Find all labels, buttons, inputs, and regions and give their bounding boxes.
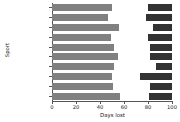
bar-segment-3 — [150, 53, 172, 60]
x-tick-label: 40 — [88, 104, 112, 110]
bar-segment-3 — [148, 4, 172, 11]
bar-track — [52, 24, 172, 31]
x-tick-label: 0 — [40, 104, 64, 110]
bar-segment-1 — [52, 24, 119, 31]
bar-segment-3 — [150, 83, 172, 90]
bar-segment-1 — [52, 34, 111, 41]
bar-segment-2 — [114, 63, 156, 70]
bar-segment-3 — [149, 93, 172, 100]
x-tick-label: 60 — [112, 104, 136, 110]
bar-segment-2 — [120, 93, 149, 100]
bar-segment-1 — [52, 14, 108, 21]
bar-track — [52, 44, 172, 51]
bar-segment-1 — [52, 44, 114, 51]
bar-track — [52, 4, 172, 11]
x-tick-label: 100 — [160, 104, 180, 110]
plot-area: OverallBoy's footballBoy's soccerGirl's … — [52, 3, 172, 101]
bar-segment-3 — [148, 34, 172, 41]
y-axis-title: Sport — [4, 30, 10, 70]
stacked-bar-chart: Sport OverallBoy's footballBoy's soccerG… — [0, 0, 180, 122]
bar-track — [52, 53, 172, 60]
bar-row: Girl's basketball — [52, 62, 172, 72]
bar-track — [52, 93, 172, 100]
bar-row: Boy's soccer — [52, 23, 172, 33]
bar-segment-3 — [146, 14, 172, 21]
bar-segment-3 — [140, 73, 172, 80]
bar-segment-1 — [52, 63, 114, 70]
bar-segment-1 — [52, 73, 112, 80]
bar-segment-1 — [52, 93, 120, 100]
bar-segment-3 — [156, 63, 172, 70]
bar-row: Boy's football — [52, 13, 172, 23]
bar-row: Boy's basketball — [52, 52, 172, 62]
x-tick-label: 80 — [136, 104, 160, 110]
bar-segment-3 — [153, 24, 172, 31]
bar-row: Boy's baseball — [52, 81, 172, 91]
bar-track — [52, 14, 172, 21]
bar-segment-2 — [112, 4, 148, 11]
bar-segment-1 — [52, 83, 113, 90]
x-axis-title: Days lost — [52, 112, 173, 118]
bar-row: Girl's softball — [52, 91, 172, 101]
bar-segment-1 — [52, 53, 118, 60]
bar-track — [52, 34, 172, 41]
bar-segment-1 — [52, 4, 112, 11]
bar-segment-3 — [150, 44, 172, 51]
bar-row: Girl's volleyball — [52, 42, 172, 52]
bar-segment-2 — [114, 44, 150, 51]
bar-track — [52, 73, 172, 80]
bar-segment-2 — [112, 73, 140, 80]
bar-row: Girl's soccer — [52, 32, 172, 42]
bar-segment-2 — [108, 14, 145, 21]
bar-track — [52, 63, 172, 70]
x-tick-label: 20 — [64, 104, 88, 110]
bar-row: Overall — [52, 3, 172, 13]
bar-segment-2 — [111, 34, 148, 41]
bar-track — [52, 83, 172, 90]
bar-segment-2 — [119, 24, 153, 31]
bar-segment-2 — [113, 83, 150, 90]
x-axis-line — [52, 101, 173, 102]
bar-row: Boy's wrestling — [52, 72, 172, 82]
bar-segment-2 — [118, 53, 150, 60]
